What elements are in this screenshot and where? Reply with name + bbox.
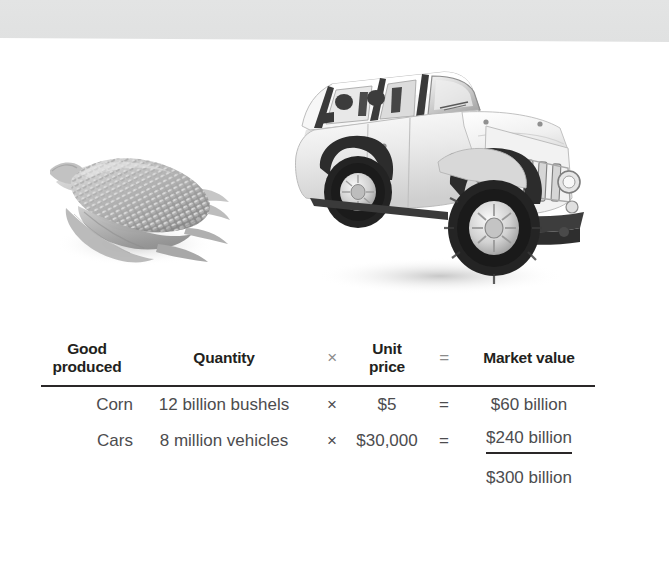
equals-icon: = bbox=[425, 386, 463, 423]
cell-good: Corn bbox=[41, 386, 133, 423]
column-header-unit-price-line1: Unit bbox=[349, 340, 425, 358]
cell-market-value: $240 billion bbox=[463, 423, 595, 460]
figure-images bbox=[0, 44, 669, 334]
column-header-unit-price-line2: price bbox=[349, 358, 425, 376]
cell-unit-price: $30,000 bbox=[349, 423, 425, 460]
page-top-band bbox=[0, 0, 669, 44]
cell-quantity: 12 billion bushels bbox=[133, 386, 315, 423]
table-header: Good produced Quantity × Unit price = Ma… bbox=[41, 340, 595, 386]
cell-good: Cars bbox=[41, 423, 133, 460]
total-market-value: $300 billion bbox=[463, 460, 595, 497]
table-body: Corn 12 billion bushels × $5 = $60 billi… bbox=[41, 386, 595, 497]
cell-market-value: $60 billion bbox=[463, 386, 595, 423]
cell-market-value-text: $240 billion bbox=[486, 429, 572, 454]
market-value-table: Good produced Quantity × Unit price = Ma… bbox=[41, 340, 595, 497]
multiply-icon: × bbox=[315, 386, 349, 423]
corn-photo bbox=[38, 116, 233, 281]
column-header-multiply-icon: × bbox=[315, 340, 349, 386]
equals-icon: = bbox=[425, 423, 463, 460]
column-header-market-value: Market value bbox=[463, 340, 595, 386]
table-row: Cars 8 million vehicles × $30,000 = $240… bbox=[41, 423, 595, 460]
column-header-unit-price: Unit price bbox=[349, 340, 425, 386]
cell-quantity: 8 million vehicles bbox=[133, 423, 315, 460]
cell-market-value-text: $60 billion bbox=[491, 395, 568, 414]
column-header-good-produced-line2: produced bbox=[41, 358, 133, 376]
column-header-good-produced-line1: Good bbox=[41, 340, 133, 358]
multiply-icon: × bbox=[315, 423, 349, 460]
table-header-row: Good produced Quantity × Unit price = Ma… bbox=[41, 340, 595, 386]
total-cell-quantity bbox=[133, 460, 315, 497]
total-cell-good bbox=[41, 460, 133, 497]
total-cell-unit-price bbox=[349, 460, 425, 497]
column-header-quantity: Quantity bbox=[133, 340, 315, 386]
total-cell-multiply bbox=[315, 460, 349, 497]
table-row: Corn 12 billion bushels × $5 = $60 billi… bbox=[41, 386, 595, 423]
total-cell-equals bbox=[425, 460, 463, 497]
table-total-row: $300 billion bbox=[41, 460, 595, 497]
cell-unit-price: $5 bbox=[349, 386, 425, 423]
figure-page: Good produced Quantity × Unit price = Ma… bbox=[0, 0, 669, 582]
jeep-photo bbox=[272, 52, 600, 300]
column-header-good-produced: Good produced bbox=[41, 340, 133, 386]
total-market-value-text: $300 billion bbox=[486, 468, 572, 487]
column-header-equals-icon: = bbox=[425, 340, 463, 386]
